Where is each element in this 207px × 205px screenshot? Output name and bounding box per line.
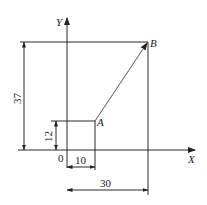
point-b-label: B <box>150 37 157 49</box>
dimension-37-label: 37 <box>11 93 23 105</box>
point-a-label: A <box>96 116 104 128</box>
dimension-10-label: 10 <box>75 154 87 166</box>
coordinate-diagram: Y X 0 B A 10 30 12 37 <box>0 0 207 205</box>
x-axis-label: X <box>187 153 196 165</box>
vector-ab <box>95 43 147 121</box>
dimension-30-label: 30 <box>100 177 112 189</box>
y-axis-label: Y <box>56 16 64 28</box>
dimension-12-label: 12 <box>42 131 54 142</box>
origin-label: 0 <box>58 152 64 164</box>
